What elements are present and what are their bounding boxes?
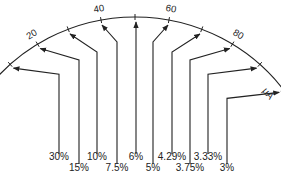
scale-tick (101, 17, 102, 23)
error-percent-label: 6% (129, 151, 144, 162)
meter-diagram: 020406080100 μA 30%15%10%7.5%6%5%4.29%3.… (0, 0, 281, 180)
pointer-arrows (14, 22, 280, 164)
error-percent-label: 30% (49, 151, 69, 162)
scale-tick (168, 17, 169, 23)
pointer-arrow (40, 48, 79, 164)
pointer-arrow (190, 48, 230, 164)
scale-tick-labels: 020406080100 (0, 2, 281, 92)
error-percent-label: 3% (220, 162, 235, 173)
pointer-arrow (102, 25, 117, 164)
pointer-arrow (227, 92, 279, 164)
pointer-arrow (70, 34, 97, 154)
error-percent-label: 7.5% (106, 162, 129, 173)
error-percent-label: 4.29% (158, 151, 186, 162)
error-percent-label: 15% (69, 162, 89, 173)
scale-tick-label: 60 (165, 2, 177, 15)
error-percent-labels: 30%15%10%7.5%6%5%4.29%3.75%3.33%3% (49, 151, 234, 173)
pointer-arrow (208, 68, 256, 154)
error-percent-label: 10% (87, 151, 107, 162)
meter-scale-figure: 020406080100 μA 30%15%10%7.5%6%5%4.29%3.… (0, 0, 281, 180)
scale-ticks (0, 14, 281, 91)
scale-tick (36, 42, 39, 47)
pointer-arrow (14, 68, 59, 154)
error-percent-label: 3.33% (194, 151, 222, 162)
pointer-arrow (153, 25, 168, 164)
error-percent-label: 3.75% (176, 162, 204, 173)
scale-tick-label: 40 (93, 2, 105, 15)
scale-tick-label: 80 (231, 26, 246, 41)
pointer-arrow (172, 34, 200, 154)
scale-tick (231, 42, 234, 47)
scale-tick-label: 20 (24, 26, 39, 41)
error-percent-label: 5% (146, 162, 161, 173)
